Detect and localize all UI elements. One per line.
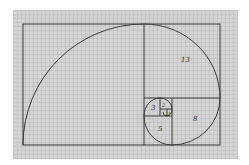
golden-spiral — [23, 24, 220, 145]
fibonacci-spiral-diagram: 13 8 5 3 2 1 — [0, 0, 249, 165]
label-8: 8 — [193, 115, 198, 123]
label-5: 5 — [158, 125, 163, 133]
label-13: 13 — [181, 56, 190, 64]
outer-rectangle — [23, 24, 220, 145]
label-3: 3 — [151, 104, 156, 112]
label-1: 1 — [168, 111, 171, 116]
label-2: 2 — [161, 102, 165, 108]
